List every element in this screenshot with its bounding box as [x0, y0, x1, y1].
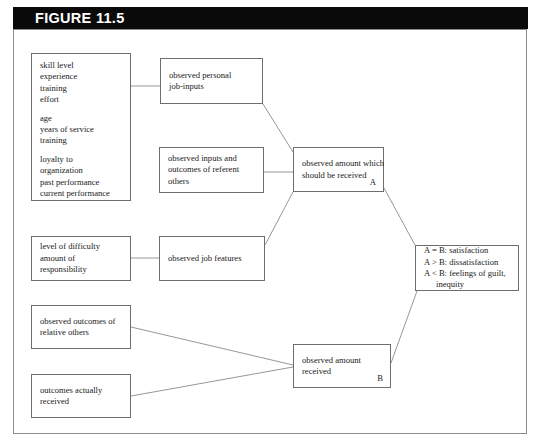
list-item: years of service	[40, 124, 122, 135]
node-text-line: A < B: feelings of guilt,	[424, 268, 506, 279]
list-item: loyalty to	[40, 154, 122, 165]
node-text-line: responsibility	[40, 264, 100, 275]
node-tag-a: A	[370, 177, 376, 188]
list-item: training	[40, 135, 122, 146]
node-text-line: A = B: satisfaction	[424, 245, 506, 256]
node-personal-inputs-list: skill level experience training effort a…	[31, 53, 131, 201]
list-gap	[40, 147, 122, 154]
figure-title-bar: FIGURE 11.5	[13, 7, 528, 29]
node-text-line: amount of	[40, 253, 100, 264]
node-observed-inputs-outcomes-referent: observed inputs and outcomes of referent…	[159, 147, 264, 193]
node-text-line: observed outcomes of	[40, 316, 115, 327]
node-text-line: observed job features	[168, 253, 242, 264]
node-text-line: A > B: dissatisfaction	[424, 257, 506, 268]
node-observed-outcomes-relative-others: observed outcomes of relative others	[31, 305, 131, 349]
list-item: past performance	[40, 177, 122, 188]
figure-page: FIGURE 11.5 skill level ex	[0, 0, 546, 445]
node-text-line: received	[302, 366, 361, 377]
node-observed-amount-should-be-received: observed amount which should be received…	[293, 147, 384, 192]
list-item: current performance	[40, 188, 122, 199]
node-outcomes-actually-received: outcomes actually received	[31, 374, 131, 418]
node-tag-b: B	[377, 373, 383, 384]
node-observed-amount-received: observed amount received B	[293, 344, 391, 388]
node-text-line: job-inputs	[169, 81, 231, 92]
node-comparison-outcomes: A = B: satisfaction A > B: dissatisfacti…	[415, 245, 519, 291]
node-text-line: observed personal	[169, 70, 231, 81]
node-text-line: others	[168, 176, 239, 187]
node-job-difficulty-list: level of difficulty amount of responsibi…	[31, 236, 131, 281]
node-observed-personal-job-inputs: observed personal job-inputs	[160, 58, 263, 104]
node-text-line: outcomes of referent	[168, 164, 239, 175]
list-item: age	[40, 113, 122, 124]
node-text-line: outcomes actually	[40, 385, 102, 396]
node-observed-job-features: observed job features	[159, 236, 265, 281]
list-item: organization	[40, 165, 122, 176]
list-item: skill level	[40, 60, 122, 71]
list-item: experience	[40, 71, 122, 82]
node-text-line: observed inputs and	[168, 153, 239, 164]
node-text-line: relative others	[40, 327, 115, 338]
node-text-line: observed amount which	[302, 158, 384, 169]
node-text-line: level of difficulty	[40, 241, 100, 252]
node-text-line: received	[40, 396, 102, 407]
node-text-line: observed amount	[302, 355, 361, 366]
list-gap	[40, 106, 122, 113]
list-item: effort	[40, 94, 122, 105]
node-text-line: inequity	[424, 279, 506, 290]
list-item: training	[40, 83, 122, 94]
figure-title: FIGURE 11.5	[35, 10, 125, 26]
